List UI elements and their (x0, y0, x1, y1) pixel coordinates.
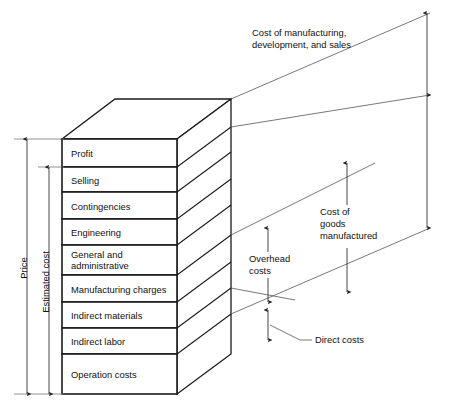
layer-label-indirect-labor: Indirect labor (71, 336, 125, 347)
left-dimensions: Price Estimated cost (14, 139, 64, 394)
layer-label-manufacturing-charges: Manufacturing charges (71, 284, 167, 295)
layer-label-contingencies: Contingencies (71, 201, 131, 212)
block-right-face (177, 99, 231, 394)
layer-label-operation-costs: Operation costs (71, 369, 137, 380)
callout-cost-of-manufacturing-line2: development, and sales (252, 39, 351, 50)
direct-costs-leader (270, 325, 300, 340)
projection-top (231, 13, 430, 99)
cost-structure-diagram: Profit Selling Contingencies Engineering… (0, 0, 450, 410)
callout-overhead-line1: Overhead (249, 253, 290, 264)
layer-label-selling: Selling (71, 175, 99, 186)
cost-stack: Profit Selling Contingencies Engineering… (62, 139, 177, 394)
callout-direct-costs-label: Direct costs (315, 334, 364, 345)
layer-label-general-administrative-line2: administrative (71, 260, 129, 271)
dimension-label-estimated-cost: Estimated cost (40, 251, 51, 313)
callout-direct-costs: Direct costs (268, 310, 364, 345)
projection-overhead-top (231, 163, 375, 235)
callout-cost-of-manufacturing-line1: Cost of manufacturing, (252, 27, 346, 38)
layer-label-engineering: Engineering (71, 227, 121, 238)
layer-label-indirect-materials: Indirect materials (71, 310, 143, 321)
callout-cost-of-goods-line2: goods (320, 218, 346, 229)
layer-label-general-administrative: General and (71, 249, 123, 260)
projection-manufacturing-base (231, 95, 430, 127)
callout-cost-of-manufacturing: Cost of manufacturing, development, and … (252, 27, 351, 50)
projection-overhead-bottom (231, 288, 295, 300)
callout-cost-of-goods-line1: Cost of (320, 206, 350, 217)
right-face-polygon (177, 99, 231, 394)
callout-overhead-line2: costs (249, 265, 271, 276)
layer-label-profit: Profit (71, 148, 93, 159)
callout-cost-of-goods-manufactured: Cost of goods manufactured (320, 163, 377, 292)
dimension-label-price: Price (18, 257, 29, 278)
callout-cost-of-goods-line3: manufactured (320, 230, 377, 241)
